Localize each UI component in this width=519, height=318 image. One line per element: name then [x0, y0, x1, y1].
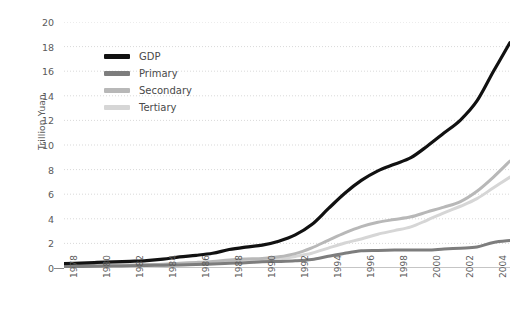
y-axis-tick-label: 14	[34, 90, 54, 101]
chart-figure: Trillion Yuan 02468101214161820 19781980…	[0, 0, 519, 318]
x-axis-tick-label: 1980	[102, 255, 112, 278]
y-axis-tick-label: 12	[34, 115, 54, 126]
y-axis-tick-label: 20	[34, 17, 54, 28]
legend-item[interactable]: Tertiary	[104, 99, 224, 116]
legend-item-label: Tertiary	[139, 102, 177, 113]
x-axis-tick-label: 2002	[465, 255, 475, 278]
legend-swatch-icon	[104, 105, 130, 110]
y-axis-tick-label: 6	[34, 189, 54, 200]
legend-swatch-icon	[104, 54, 130, 59]
y-axis-tick-label: 0	[34, 263, 54, 274]
y-axis-tick-label: 10	[34, 140, 54, 151]
x-axis-tick-label: 1996	[366, 255, 376, 278]
y-axis-tick-label: 16	[34, 66, 54, 77]
x-axis-tick-label: 1978	[69, 255, 79, 278]
x-axis-tick-label: 2000	[432, 255, 442, 278]
x-axis-tick-label: 1994	[333, 255, 343, 278]
x-axis-tick-label: 1986	[201, 255, 211, 278]
legend-item[interactable]: GDP	[104, 48, 224, 65]
legend-item[interactable]: Primary	[104, 65, 224, 82]
x-axis-tick-label: 2004	[498, 255, 508, 278]
legend-item-label: Primary	[139, 68, 178, 79]
legend-item-label: Secondary	[139, 85, 192, 96]
legend-item[interactable]: Secondary	[104, 82, 224, 99]
x-axis-tick-label: 1992	[300, 255, 310, 278]
legend-item-label: GDP	[139, 51, 160, 62]
series-line-tertiary	[64, 177, 510, 267]
y-axis-tick-label: 8	[34, 164, 54, 175]
x-axis-tick-label: 1984	[168, 255, 178, 278]
chart-legend: GDPPrimarySecondaryTertiary	[104, 48, 224, 116]
x-axis-tick-label: 1982	[135, 255, 145, 278]
y-axis-tick-label: 2	[34, 238, 54, 249]
y-axis-tick-label: 4	[34, 213, 54, 224]
x-axis-tick-label: 1998	[399, 255, 409, 278]
legend-swatch-icon	[104, 71, 130, 76]
x-axis-tick-label: 1990	[267, 255, 277, 278]
y-axis-tick-label: 18	[34, 41, 54, 52]
legend-swatch-icon	[104, 88, 130, 93]
x-axis-tick-label: 1988	[234, 255, 244, 278]
y-axis-zero-tick	[54, 268, 64, 269]
